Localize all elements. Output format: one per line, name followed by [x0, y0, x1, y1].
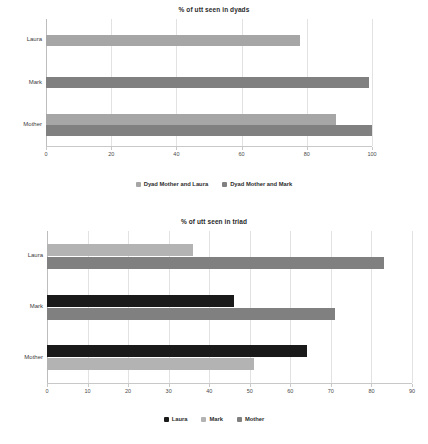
tick-mark: [250, 384, 251, 387]
category-label: Mother: [0, 354, 43, 360]
legend-swatch-icon: [136, 182, 141, 187]
dyads-legend: Dyad Mother and LauraDyad Mother and Mar…: [0, 181, 428, 187]
tick-mark: [290, 384, 291, 387]
category-label: Mother: [0, 121, 42, 127]
chart-page: % of utt seen in dyads LauraMarkMother02…: [0, 0, 428, 444]
tick-mark: [372, 147, 373, 150]
tick-mark: [307, 147, 308, 150]
tick-mark: [111, 147, 112, 150]
x-tick-label: 80: [295, 151, 319, 157]
x-axis-line: [46, 146, 372, 147]
legend-label: Mark: [209, 416, 223, 422]
x-tick-label: 60: [278, 388, 302, 394]
tick-mark: [242, 147, 243, 150]
tick-mark: [169, 384, 170, 387]
legend-item[interactable]: Dyad Mother and Laura: [136, 181, 208, 187]
bar: [47, 244, 193, 256]
dyads-plot-area: LauraMarkMother020406080100: [0, 19, 428, 169]
triad-chart: % of utt seen in triad LauraMarkMother01…: [0, 218, 428, 406]
x-tick-label: 20: [116, 388, 140, 394]
legend-label: Laura: [172, 416, 188, 422]
tick-mark: [88, 384, 89, 387]
triad-legend: LauraMarkMother: [0, 416, 428, 422]
legend-swatch-icon: [164, 417, 169, 422]
dyads-chart: % of utt seen in dyads LauraMarkMother02…: [0, 6, 428, 169]
x-tick-label: 40: [197, 388, 221, 394]
x-tick-label: 60: [230, 151, 254, 157]
legend-item[interactable]: Dyad Mother and Mark: [222, 181, 292, 187]
gridline: [372, 19, 373, 146]
x-tick-label: 50: [238, 388, 262, 394]
tick-mark: [46, 147, 47, 150]
bar: [47, 308, 335, 320]
category-label: Mark: [0, 79, 42, 85]
x-tick-label: 90: [400, 388, 424, 394]
x-tick-label: 10: [76, 388, 100, 394]
x-axis-line: [47, 383, 412, 384]
tick-mark: [209, 384, 210, 387]
legend-label: Dyad Mother and Laura: [144, 181, 208, 187]
chart-title-dyads: % of utt seen in dyads: [0, 6, 428, 13]
tick-mark: [128, 384, 129, 387]
legend-swatch-icon: [237, 417, 242, 422]
tick-mark: [47, 384, 48, 387]
bar: [47, 257, 384, 269]
legend-swatch-icon: [201, 417, 206, 422]
legend-item[interactable]: Mother: [237, 416, 264, 422]
x-tick-label: 70: [319, 388, 343, 394]
legend-label: Dyad Mother and Mark: [230, 181, 292, 187]
tick-mark: [331, 384, 332, 387]
x-tick-label: 80: [359, 388, 383, 394]
bar: [47, 345, 307, 357]
x-tick-label: 40: [164, 151, 188, 157]
x-tick-label: 100: [360, 151, 384, 157]
tick-mark: [371, 384, 372, 387]
bar: [46, 77, 369, 88]
category-label: Laura: [0, 36, 42, 42]
tick-mark: [176, 147, 177, 150]
gridline: [412, 231, 413, 383]
gridline: [371, 231, 372, 383]
chart-title-triad: % of utt seen in triad: [0, 218, 428, 225]
bar: [46, 125, 372, 136]
x-tick-label: 0: [34, 151, 58, 157]
bar: [47, 358, 254, 370]
legend-item[interactable]: Mark: [201, 416, 223, 422]
category-label: Laura: [0, 252, 43, 258]
bar: [46, 114, 336, 125]
triad-plot-area: LauraMarkMother0102030405060708090: [0, 231, 428, 406]
x-tick-label: 20: [99, 151, 123, 157]
x-tick-label: 0: [35, 388, 59, 394]
legend-label: Mother: [245, 416, 264, 422]
tick-mark: [412, 384, 413, 387]
legend-item[interactable]: Laura: [164, 416, 188, 422]
x-tick-label: 30: [157, 388, 181, 394]
legend-swatch-icon: [222, 182, 227, 187]
bar: [46, 35, 300, 46]
bar: [47, 295, 234, 307]
category-label: Mark: [0, 303, 43, 309]
